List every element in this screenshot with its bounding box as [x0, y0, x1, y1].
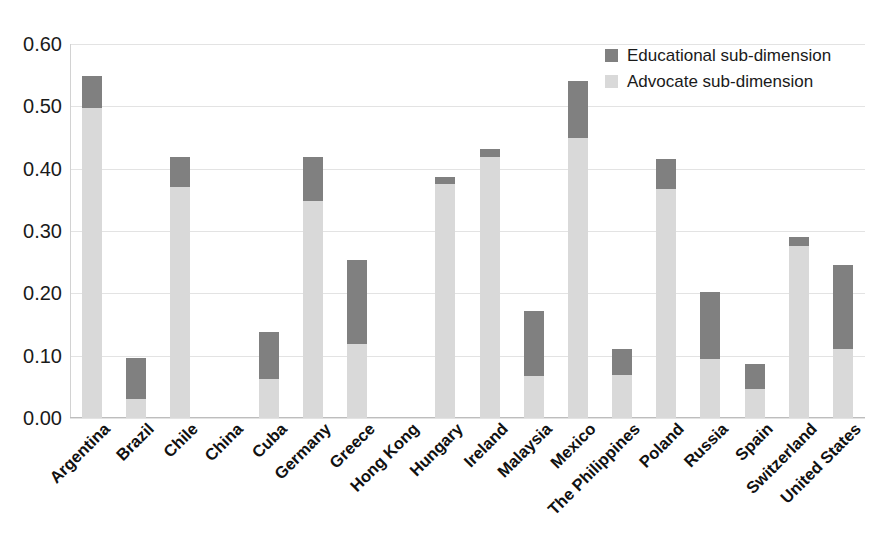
- bar-segment-advocate[interactable]: [259, 379, 279, 418]
- legend-item-label: Educational sub-dimension: [627, 47, 831, 64]
- bar-segment-educational[interactable]: [789, 237, 809, 246]
- x-axis-tick-label: United States: [777, 420, 863, 506]
- bar-segment-advocate[interactable]: [303, 201, 323, 418]
- legend-swatch-icon: [605, 49, 618, 62]
- bar-segment-educational[interactable]: [347, 260, 367, 345]
- bar-segment-educational[interactable]: [126, 358, 146, 399]
- bar-segment-educational[interactable]: [435, 177, 455, 184]
- x-axis-tick-label: Russia: [681, 420, 731, 470]
- bar-segment-advocate[interactable]: [435, 184, 455, 418]
- bar-group[interactable]: [745, 44, 765, 418]
- bar-group[interactable]: [303, 44, 323, 418]
- bar-segment-educational[interactable]: [480, 149, 500, 156]
- bar-segment-advocate[interactable]: [789, 246, 809, 418]
- bar-segment-advocate[interactable]: [656, 189, 676, 418]
- bar-segment-advocate[interactable]: [480, 157, 500, 418]
- bar-group[interactable]: [700, 44, 720, 418]
- stacked-bar-chart: 0.000.100.200.300.400.500.60 Educational…: [0, 0, 874, 545]
- gridline: [70, 418, 865, 419]
- y-axis-tick-label: 0.10: [8, 346, 62, 366]
- y-axis-tick-label: 0.50: [8, 96, 62, 116]
- bar-segment-educational[interactable]: [568, 81, 588, 138]
- bar-group[interactable]: [435, 44, 455, 418]
- bar-group[interactable]: [347, 44, 367, 418]
- bar-group[interactable]: [789, 44, 809, 418]
- y-axis-tick-label: 0.20: [8, 283, 62, 303]
- x-axis-tick-label: China: [201, 420, 245, 464]
- bar-segment-advocate[interactable]: [745, 389, 765, 418]
- bar-group[interactable]: [833, 44, 853, 418]
- bar-group[interactable]: [656, 44, 676, 418]
- bar-group[interactable]: [568, 44, 588, 418]
- bar-segment-educational[interactable]: [303, 157, 323, 201]
- bar-segment-educational[interactable]: [170, 157, 190, 187]
- plot-area: [70, 44, 865, 418]
- bar-group[interactable]: [480, 44, 500, 418]
- y-axis-tick-label: 0.40: [8, 159, 62, 179]
- y-axis-tick-label: 0.30: [8, 221, 62, 241]
- legend: Educational sub-dimensionAdvocate sub-di…: [605, 44, 831, 92]
- bar-segment-educational[interactable]: [745, 364, 765, 390]
- y-axis: 0.000.100.200.300.400.500.60: [0, 0, 62, 545]
- y-axis-tick-label: 0.00: [8, 408, 62, 428]
- bar-segment-educational[interactable]: [524, 311, 544, 376]
- bar-segment-educational[interactable]: [259, 332, 279, 379]
- legend-item[interactable]: Advocate sub-dimension: [605, 70, 831, 92]
- x-axis-tick-label: Poland: [636, 420, 687, 471]
- bar-segment-advocate[interactable]: [833, 349, 853, 418]
- x-axis: ArgentinaBrazilChileChinaCubaGermanyGree…: [70, 420, 865, 545]
- bar-segment-educational[interactable]: [612, 349, 632, 375]
- bar-group[interactable]: [612, 44, 632, 418]
- bar-segment-educational[interactable]: [82, 76, 102, 108]
- bar-segment-advocate[interactable]: [612, 375, 632, 418]
- y-axis-tick-label: 0.60: [8, 34, 62, 54]
- legend-swatch-icon: [605, 75, 618, 88]
- bar-segment-educational[interactable]: [833, 265, 853, 349]
- bar-segment-advocate[interactable]: [568, 138, 588, 418]
- x-axis-tick-label: Brazil: [113, 420, 156, 463]
- bar-group[interactable]: [170, 44, 190, 418]
- bar-group[interactable]: [259, 44, 279, 418]
- bar-segment-educational[interactable]: [656, 159, 676, 189]
- bar-segment-educational[interactable]: [700, 292, 720, 359]
- bar-group[interactable]: [524, 44, 544, 418]
- bar-segment-advocate[interactable]: [126, 399, 146, 418]
- x-axis-tick-label: Cuba: [249, 420, 290, 461]
- bar-group[interactable]: [126, 44, 146, 418]
- bar-segment-advocate[interactable]: [524, 376, 544, 418]
- bar-segment-advocate[interactable]: [82, 108, 102, 418]
- bar-group[interactable]: [82, 44, 102, 418]
- bar-segment-advocate[interactable]: [347, 344, 367, 418]
- bar-segment-advocate[interactable]: [700, 359, 720, 418]
- legend-item-label: Advocate sub-dimension: [627, 73, 813, 90]
- legend-item[interactable]: Educational sub-dimension: [605, 44, 831, 66]
- x-axis-tick-label: Chile: [161, 420, 201, 460]
- bars-layer: [70, 44, 865, 418]
- bar-segment-advocate[interactable]: [170, 187, 190, 418]
